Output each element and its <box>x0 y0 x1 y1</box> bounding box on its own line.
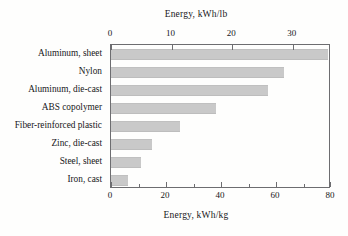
bottom-tick-0 <box>111 182 112 187</box>
bottom-minor-tick-10 <box>139 184 140 187</box>
bar-4 <box>111 121 180 132</box>
top-tick-label-10: 10 <box>166 28 175 38</box>
bottom-tick-40 <box>221 182 222 187</box>
bottom-tick-60 <box>276 182 277 187</box>
bottom-minor-tick-70 <box>304 184 305 187</box>
bottom-tick-label-20: 20 <box>161 190 170 200</box>
top-tick-0 <box>111 45 112 50</box>
top-tick-10 <box>172 45 173 50</box>
bar-1 <box>111 67 284 78</box>
bar-7 <box>111 175 128 186</box>
bar-3 <box>111 103 216 114</box>
bar-0 <box>111 49 328 60</box>
category-label-6: Steel, sheet <box>60 156 102 166</box>
bar-5 <box>111 139 152 150</box>
bottom-minor-tick-30 <box>194 184 195 187</box>
bottom-tick-label-60: 60 <box>271 190 280 200</box>
category-label-0: Aluminum, sheet <box>38 48 102 58</box>
top-tick-30 <box>293 45 294 50</box>
bar-6 <box>111 157 141 168</box>
bottom-minor-tick-50 <box>249 184 250 187</box>
category-labels: Aluminum, sheetNylonAluminum, die-castAB… <box>0 0 106 236</box>
bar-2 <box>111 85 268 96</box>
bottom-tick-label-40: 40 <box>216 190 225 200</box>
category-label-7: Iron, cast <box>67 174 102 184</box>
top-tick-label-0: 0 <box>108 28 113 38</box>
bottom-tick-label-0: 0 <box>108 190 113 200</box>
top-tick-label-30: 30 <box>287 28 296 38</box>
category-label-3: ABS copolymer <box>42 102 102 112</box>
category-label-4: Fiber-reinforced plastic <box>15 120 102 130</box>
bottom-tick-20 <box>166 182 167 187</box>
category-label-2: Aluminum, die-cast <box>28 84 102 94</box>
bottom-tick-label-80: 80 <box>326 190 335 200</box>
bottom-axis-title-text: Energy, kWh/kg <box>164 210 229 220</box>
bar-chart-figure: Energy, kWh/lb 0102030 Aluminum, sheetNy… <box>0 0 348 236</box>
top-axis-title-text: Energy, kWh/lb <box>165 9 228 19</box>
top-tick-20 <box>232 45 233 50</box>
top-tick-label-20: 20 <box>227 28 236 38</box>
category-label-5: Zinc, die-cast <box>51 138 102 148</box>
category-label-1: Nylon <box>79 66 102 76</box>
bottom-axis-title: Energy, kWh/kg <box>0 210 348 220</box>
bottom-tick-80 <box>330 182 331 187</box>
plot-area <box>110 44 330 188</box>
